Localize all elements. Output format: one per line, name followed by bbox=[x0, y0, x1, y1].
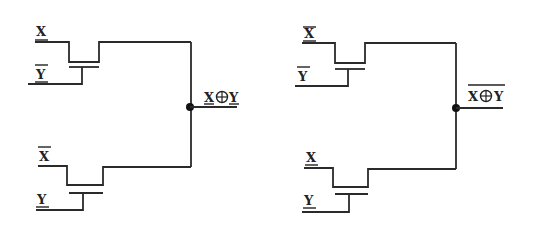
xor-output-label: X Y bbox=[204, 90, 239, 105]
circuit-diagram: X Y X Y X Y bbox=[0, 0, 535, 228]
out-y: Y bbox=[228, 90, 239, 105]
out-x: X bbox=[204, 90, 215, 105]
label-y: Y bbox=[36, 192, 47, 207]
label-x: X bbox=[36, 24, 47, 39]
out-x: X bbox=[468, 89, 479, 104]
label-y-bar: Y bbox=[35, 67, 46, 82]
label-x-bar: X bbox=[39, 149, 50, 164]
xnor-bottom-transistor: X Y bbox=[302, 150, 456, 212]
xor-circuit: X Y X Y X Y bbox=[28, 24, 239, 210]
xnor-top-transistor: X Y bbox=[295, 26, 456, 86]
xnor-circuit: X Y X Y X Y bbox=[295, 26, 505, 212]
xor-bottom-transistor: X Y bbox=[36, 147, 191, 210]
channel-wire bbox=[38, 166, 191, 185]
channel-wire bbox=[302, 43, 456, 63]
label-x-bar: X bbox=[304, 26, 315, 41]
label-y: Y bbox=[303, 193, 314, 208]
channel-wire bbox=[304, 168, 456, 187]
out-y: Y bbox=[493, 89, 504, 104]
channel-wire bbox=[35, 42, 191, 62]
xnor-output-label: X Y bbox=[468, 85, 505, 104]
xor-top-transistor: X Y bbox=[28, 24, 191, 84]
label-x: X bbox=[306, 150, 317, 165]
label-y-bar: Y bbox=[297, 69, 308, 84]
